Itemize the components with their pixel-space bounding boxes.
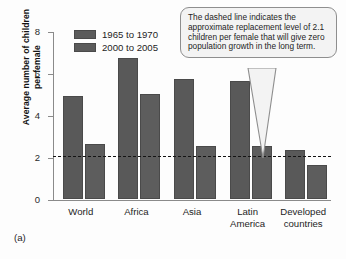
x-axis-category-label: Developed countries bbox=[275, 206, 331, 229]
bar bbox=[140, 94, 160, 199]
y-axis-tick-label: 0 bbox=[35, 195, 40, 205]
x-axis-line bbox=[53, 200, 331, 201]
y-axis-line bbox=[53, 32, 54, 200]
bar bbox=[174, 79, 194, 199]
panel-label: (a) bbox=[14, 232, 26, 243]
legend: 1965 to 1970 2000 to 2005 bbox=[74, 30, 158, 52]
legend-swatch-icon bbox=[74, 30, 96, 39]
bar bbox=[63, 96, 83, 199]
legend-label-series-1: 1965 to 1970 bbox=[102, 30, 158, 40]
y-axis-tick: 6 bbox=[48, 74, 53, 75]
callout-annotation: The dashed line indicates the approximat… bbox=[180, 7, 337, 58]
y-axis-tick: 2 bbox=[48, 158, 53, 159]
x-axis-category-label: Asia bbox=[164, 206, 220, 218]
bar bbox=[196, 146, 216, 199]
x-axis-category-label: Africa bbox=[109, 206, 165, 218]
x-axis-category-label: World bbox=[53, 206, 109, 218]
bar bbox=[307, 165, 327, 199]
bar bbox=[85, 144, 105, 199]
bar-group bbox=[174, 79, 216, 199]
legend-label-series-2: 2000 to 2005 bbox=[102, 43, 158, 53]
y-axis-tick-label: 8 bbox=[35, 27, 40, 37]
callout-pointer-icon bbox=[246, 68, 292, 160]
bar-group bbox=[63, 96, 105, 199]
x-axis-category-label: Latin America bbox=[220, 206, 276, 229]
legend-item-series-1: 1965 to 1970 bbox=[74, 30, 158, 40]
legend-swatch-icon bbox=[74, 43, 96, 52]
y-axis-tick: 0 bbox=[48, 200, 53, 201]
legend-item-series-2: 2000 to 2005 bbox=[74, 43, 158, 53]
bar-group bbox=[118, 58, 160, 199]
y-axis-tick-label: 2 bbox=[35, 153, 40, 163]
y-axis-tick: 4 bbox=[48, 116, 53, 117]
bar bbox=[118, 58, 138, 199]
y-axis-tick-label: 4 bbox=[35, 111, 40, 121]
y-axis-tick: 8 bbox=[48, 32, 53, 33]
y-axis-tick-label: 6 bbox=[35, 69, 40, 79]
fertility-bar-chart-figure: Average number of children per female (a… bbox=[0, 0, 346, 259]
